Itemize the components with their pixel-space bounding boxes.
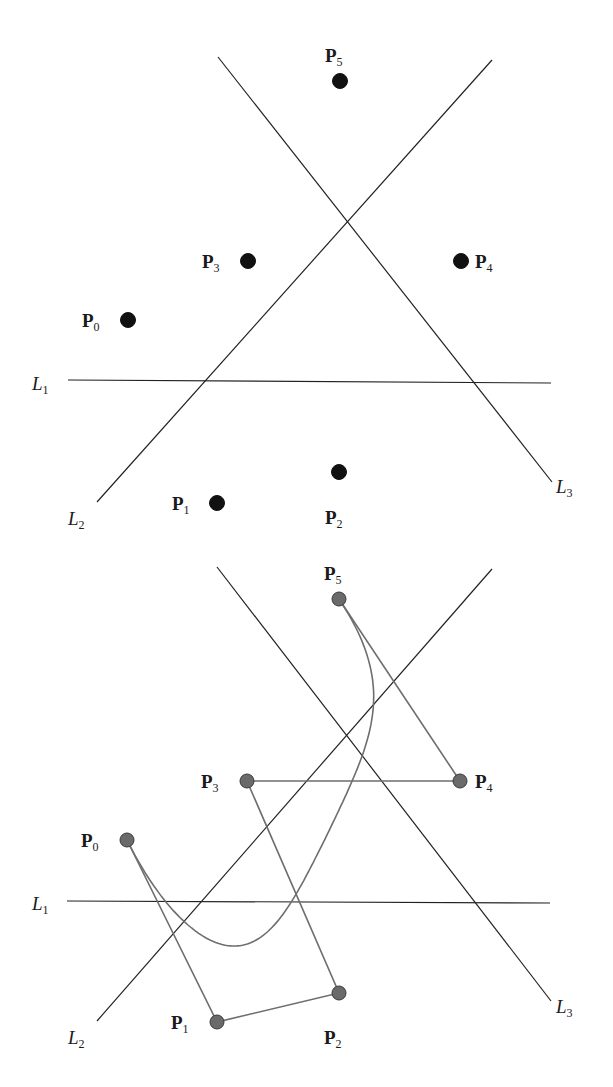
point-label-P5: P5 [325, 45, 343, 69]
point-label-P0: P0 [81, 830, 99, 854]
bottom-panel-bezier-construction: L1L2L3P0P1P2P3P4P5 [31, 563, 573, 1051]
control-point-P4-icon [453, 774, 467, 788]
line-label-L2: L2 [67, 1027, 85, 1051]
line-L1 [67, 901, 550, 903]
control-point-P2-icon [332, 465, 347, 480]
line-L3 [218, 57, 552, 482]
point-label-P2: P2 [325, 507, 343, 531]
line-L3 [217, 567, 551, 1001]
point-label-P0: P0 [82, 310, 100, 334]
control-point-P3-icon [241, 254, 256, 269]
point-label-P3: P3 [201, 771, 219, 795]
line-L2 [97, 569, 492, 1021]
control-point-P2-icon [332, 986, 346, 1000]
line-label-L2: L2 [67, 508, 85, 532]
point-label-P4: P4 [475, 771, 493, 795]
point-label-P5: P5 [324, 563, 342, 587]
line-label-L3: L3 [555, 996, 573, 1020]
line-L2 [97, 60, 492, 502]
bezier-curve [127, 599, 374, 946]
control-point-P0-icon [120, 833, 134, 847]
point-label-P3: P3 [202, 251, 220, 275]
point-label-P2: P2 [324, 1027, 342, 1051]
control-point-P5-icon [333, 74, 348, 89]
control-point-P0-icon [121, 313, 136, 328]
control-point-P1-icon [210, 1015, 224, 1029]
line-label-L1: L1 [31, 893, 49, 917]
point-label-P1: P1 [172, 493, 190, 517]
point-label-P1: P1 [171, 1012, 189, 1036]
bezier-diagram: L1L2L3P0P1P2P3P4P5 L1L2L3P0P1P2P3P4P5 [0, 0, 613, 1087]
point-label-P4: P4 [475, 251, 493, 275]
control-point-P1-icon [210, 496, 225, 511]
top-panel-point-set: L1L2L3P0P1P2P3P4P5 [31, 45, 573, 532]
line-label-L1: L1 [31, 373, 49, 397]
line-label-L3: L3 [555, 476, 573, 500]
control-point-P3-icon [240, 774, 254, 788]
control-point-P4-icon [454, 254, 469, 269]
line-L1 [68, 380, 551, 383]
control-point-P5-icon [332, 592, 346, 606]
